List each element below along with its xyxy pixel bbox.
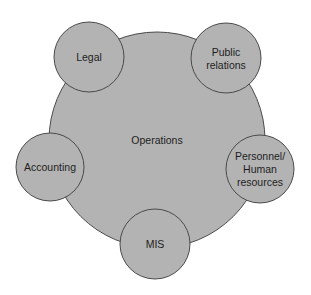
legal-circle: Legal <box>54 22 124 92</box>
public-relations-label-line2: relations <box>206 59 246 71</box>
mis-label: MIS <box>146 238 165 250</box>
accounting-label: Accounting <box>24 161 76 173</box>
personnel-label-line1: Personnel/ <box>235 150 285 162</box>
public-relations-label-line1: Public <box>212 46 241 58</box>
personnel-label-line2: Human <box>243 163 277 175</box>
mis-circle: MIS <box>120 209 190 279</box>
legal-label: Legal <box>76 51 102 63</box>
accounting-circle: Accounting <box>16 133 84 201</box>
personnel-label-line3: resources <box>237 176 283 188</box>
operations-label: Operations <box>131 134 182 146</box>
org-diagram: Operations Legal Public relations Accoun… <box>0 0 311 295</box>
personnel-human-resources-circle: Personnel/ Human resources <box>226 135 294 203</box>
public-relations-circle: Public relations <box>191 23 261 93</box>
